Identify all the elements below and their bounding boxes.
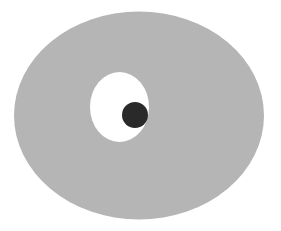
figure-canvas bbox=[0, 0, 281, 231]
eye-shape-figure bbox=[0, 0, 281, 231]
dark-dot bbox=[122, 102, 148, 128]
